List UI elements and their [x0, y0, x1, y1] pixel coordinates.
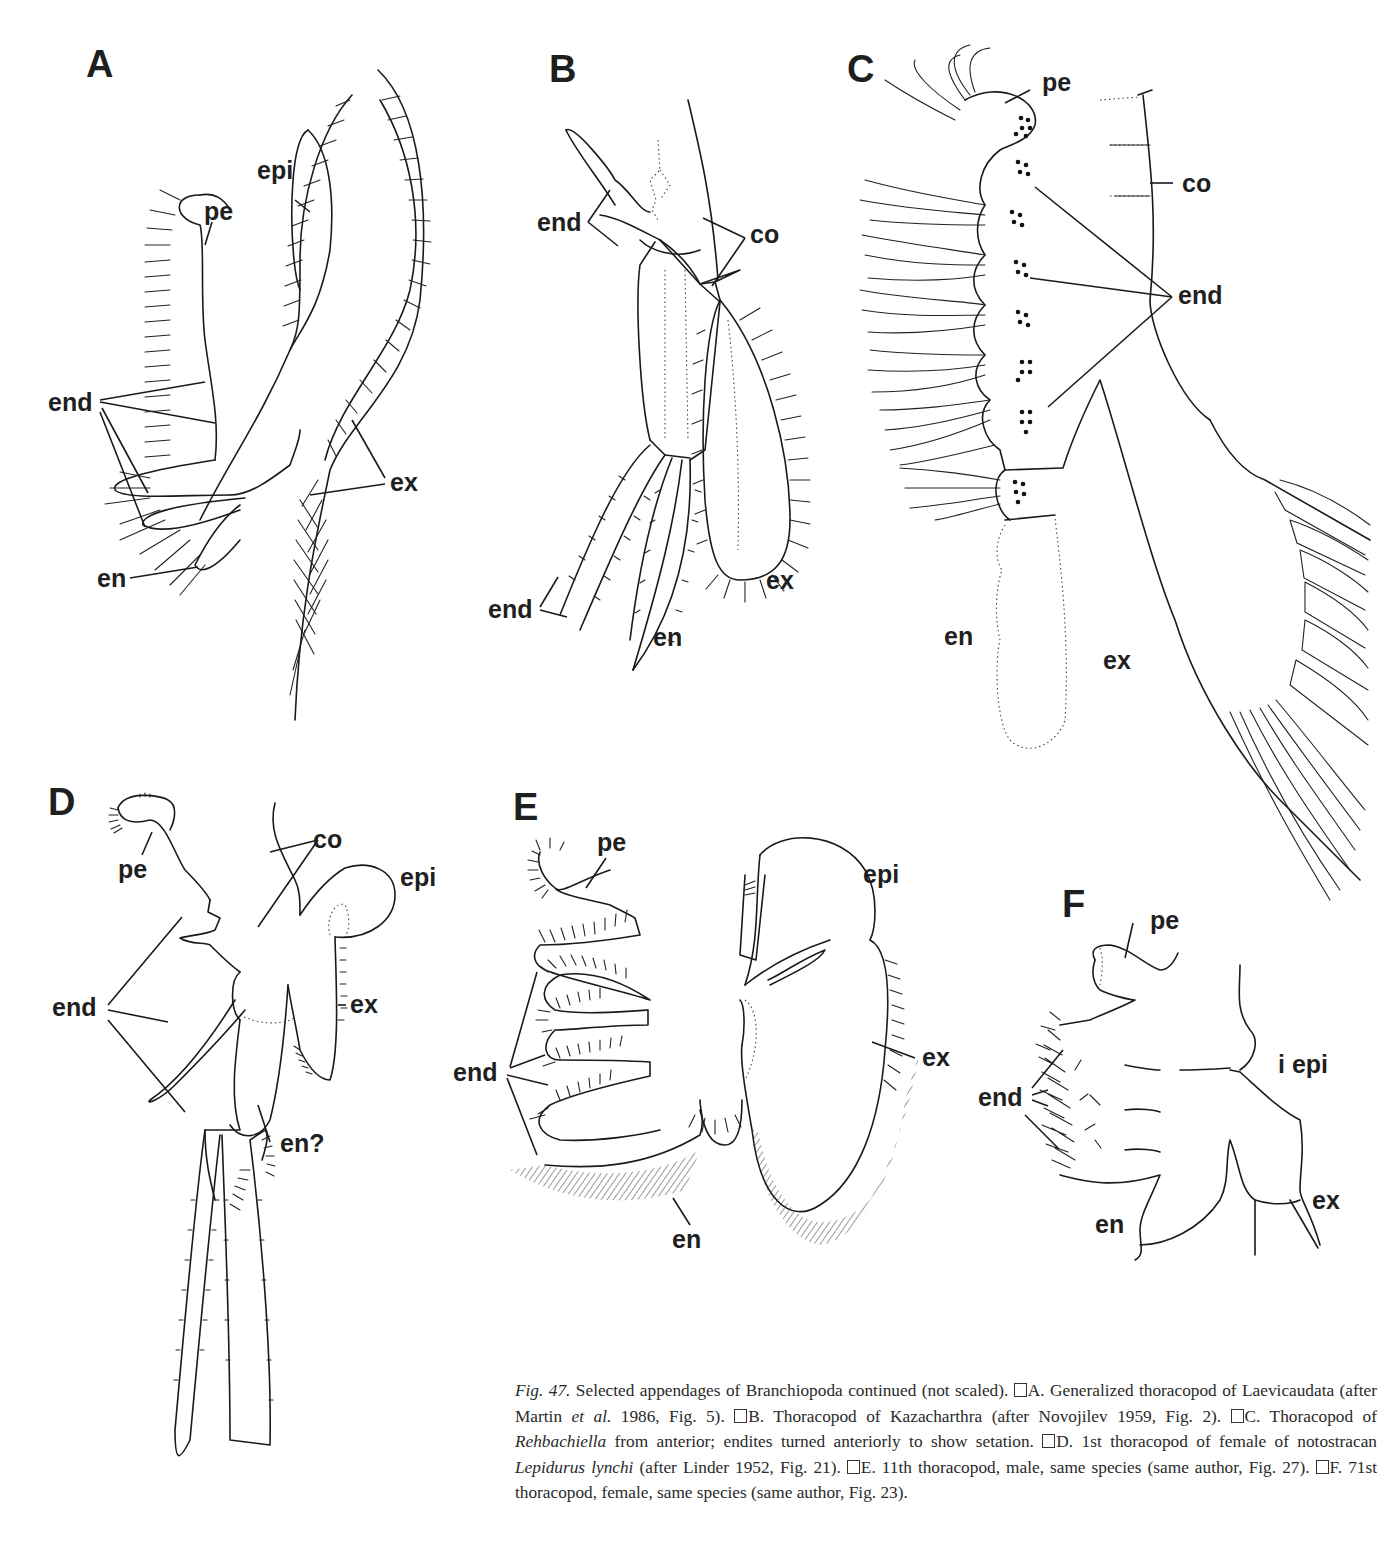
label-f-en: en [1095, 1212, 1124, 1237]
caption-d-tail: (after Linder 1952, Fig. 21). [633, 1458, 846, 1477]
caption-d-taxon: Lepidurus lynchi [515, 1458, 633, 1477]
label-e-pe: pe [597, 830, 626, 855]
caption-c-tail: from anterior; endites turned anteriorly… [606, 1432, 1042, 1451]
label-d-en-question: en? [280, 1131, 324, 1156]
label-f-end: end [978, 1085, 1022, 1110]
box-marker-icon [734, 1409, 747, 1423]
label-c-co: co [1182, 171, 1211, 196]
label-b-en: en [653, 625, 682, 650]
panel-letter-e: E [513, 788, 538, 826]
caption-fig-label: Fig. 47. [515, 1381, 570, 1400]
label-f-ex: ex [1312, 1188, 1340, 1213]
label-d-co: co [313, 827, 342, 852]
label-c-pe: pe [1042, 70, 1071, 95]
label-d-epi: epi [400, 865, 436, 890]
caption-b: B. Thoracopod of Kazacharthra (after Nov… [748, 1407, 1230, 1426]
label-c-en: en [944, 624, 973, 649]
label-c-ex: ex [1103, 648, 1131, 673]
label-a-pe: pe [204, 199, 233, 224]
label-b-end-upper: end [537, 210, 581, 235]
label-a-end: end [48, 390, 92, 415]
box-marker-icon [1231, 1409, 1244, 1423]
caption-a-tail: 1986, Fig. 5). [611, 1407, 734, 1426]
panel-letter-a: A [86, 45, 113, 83]
label-e-en: en [672, 1227, 701, 1252]
label-a-epi: epi [257, 158, 293, 183]
box-marker-icon [1042, 1434, 1055, 1448]
caption-intro: Selected appendages of Branchiopoda cont… [570, 1381, 1013, 1400]
box-marker-icon [847, 1460, 860, 1474]
caption-a-etal: et al. [572, 1407, 612, 1426]
panel-letter-f: F [1062, 885, 1085, 923]
figure-47: A B C D E F pe epi end ex en end co end … [0, 0, 1381, 1551]
setae-fringe [860, 45, 1000, 520]
figure-caption: Fig. 47. Selected appendages of Branchio… [515, 1378, 1377, 1506]
panel-e-drawing [510, 838, 920, 1245]
label-a-ex: ex [390, 470, 418, 495]
label-e-epi: epi [863, 862, 899, 887]
label-e-ex: ex [922, 1045, 950, 1070]
panel-letter-d: D [48, 783, 75, 821]
caption-e: E. 11th thoracopod, male, same species (… [861, 1458, 1316, 1477]
label-d-end: end [52, 995, 96, 1020]
panel-letter-c: C [847, 50, 874, 88]
panel-d-drawing [109, 793, 395, 1456]
label-b-end-lower: end [488, 597, 532, 622]
label-e-end: end [453, 1060, 497, 1085]
panel-f-drawing [1036, 945, 1320, 1260]
label-a-en: en [97, 566, 126, 591]
caption-c-taxon: Rehbachiella [515, 1432, 606, 1451]
box-marker-icon [1014, 1383, 1027, 1397]
label-c-end: end [1178, 283, 1222, 308]
caption-c-head: C. Thoracopod of [1245, 1407, 1377, 1426]
figure-line-art [0, 0, 1381, 1551]
label-b-co: co [750, 222, 779, 247]
ex-plumose-setae [1230, 480, 1370, 900]
panel-letter-b: B [549, 50, 576, 88]
label-f-i-epi: i epi [1278, 1052, 1328, 1077]
label-d-ex: ex [350, 992, 378, 1017]
caption-d-head: D. 1st thoracopod of female of notostrac… [1056, 1432, 1377, 1451]
label-f-pe: pe [1150, 908, 1179, 933]
box-marker-icon [1316, 1460, 1329, 1474]
label-b-ex: ex [766, 568, 794, 593]
label-d-pe: pe [118, 857, 147, 882]
setal-dots [1010, 116, 1033, 505]
panel-c-drawing [860, 45, 1370, 900]
